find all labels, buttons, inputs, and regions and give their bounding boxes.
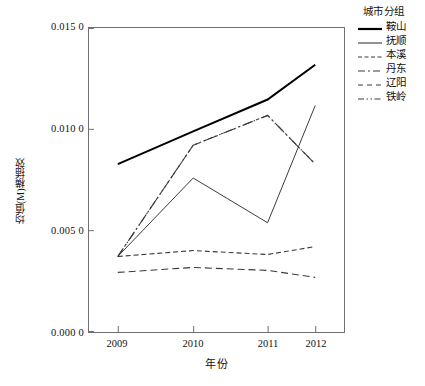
y-tick-label-0000: 0.000 0	[22, 328, 84, 338]
legend-swatch-solid-thick-icon	[357, 21, 383, 33]
legend-item-benxi[interactable]: 本溪	[357, 48, 425, 62]
legend-item-tieling[interactable]: 铁岭	[357, 90, 425, 104]
legend-item-dandong[interactable]: 丹东	[357, 62, 425, 76]
legend-item-fushun[interactable]: 抚顺	[357, 34, 425, 48]
y-axis-title: 均值(M)横插效	[14, 136, 30, 246]
x-axis-title: 年份	[88, 358, 345, 371]
chart-figure: 0.015 0 0.010 0 0.005 0 0.000 0 均值(M)横插效	[0, 0, 425, 386]
series-line-liaoyang	[118, 267, 315, 277]
legend-label-liaoyang: 辽阳	[386, 77, 406, 89]
series-line-anshan	[118, 65, 315, 164]
y-tick-label-0100: 0.010 0	[22, 124, 84, 134]
x-tick-label-2012: 2012	[288, 338, 344, 350]
x-tick-label-2010: 2010	[165, 338, 221, 350]
series-line-benxi	[118, 247, 315, 257]
series-line-tieling	[118, 115, 315, 256]
legend-swatch-dash-dot-icon	[357, 63, 383, 75]
legend-item-anshan[interactable]: 鞍山	[357, 20, 425, 34]
x-tick-label-2009: 2009	[89, 338, 145, 350]
legend-label-fushun: 抚顺	[386, 35, 406, 47]
y-tick-label-0050: 0.005 0	[22, 226, 84, 236]
legend-swatch-long-dash-icon	[357, 77, 383, 89]
legend-label-dandong: 丹东	[386, 63, 406, 75]
plot-area	[88, 27, 345, 333]
plot-canvas	[89, 28, 344, 332]
legend-item-liaoyang[interactable]: 辽阳	[357, 76, 425, 90]
legend-swatch-solid-thin-icon	[357, 35, 383, 47]
legend-swatch-fine-dash-icon	[357, 49, 383, 61]
legend-label-anshan: 鞍山	[386, 21, 406, 33]
legend: 城市分组 鞍山 抚顺 本溪 丹东	[357, 5, 425, 104]
y-tick-label-0150: 0.015 0	[22, 22, 84, 32]
y-axis-ticks	[89, 28, 94, 331]
series-line-fushun	[118, 105, 315, 256]
legend-label-tieling: 铁岭	[386, 91, 406, 103]
legend-swatch-dash-dot-dot-icon	[357, 91, 383, 103]
series-line-dandong	[118, 115, 315, 256]
legend-label-benxi: 本溪	[386, 49, 406, 61]
legend-title: 城市分组	[363, 5, 425, 18]
x-axis-ticks	[118, 326, 315, 332]
x-axis-tick-labels: 2009 2010 2011 2012	[0, 338, 425, 354]
